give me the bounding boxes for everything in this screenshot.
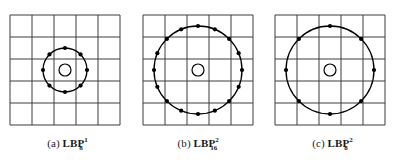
sampling-point	[284, 68, 288, 72]
panel-b-caption-prefix: (b)	[178, 137, 191, 149]
panel-a-superscript: 1	[84, 136, 88, 144]
sampling-point	[164, 99, 168, 103]
sampling-point	[297, 99, 301, 103]
sampling-point	[63, 46, 67, 50]
panel-b-caption: (b) LBP216	[178, 136, 218, 152]
sampling-point	[164, 37, 168, 41]
sampling-point	[195, 112, 199, 116]
center-pixel-marker	[59, 64, 71, 76]
sampling-point	[359, 37, 363, 41]
sampling-point	[195, 24, 199, 28]
sampling-point	[372, 68, 376, 72]
sampling-point	[239, 68, 243, 72]
sampling-point	[155, 85, 159, 89]
panel-b-superscript: 2	[215, 136, 219, 144]
panel-c-grid	[275, 15, 385, 125]
sampling-point	[179, 109, 183, 113]
panel-a-grid	[10, 15, 120, 125]
panel-a: (a) LBP18	[0, 0, 130, 160]
lbp-figure: (a) LBP18 (b) LBP216 (c) LBP28	[0, 0, 395, 160]
sampling-point	[47, 52, 51, 56]
sampling-point	[328, 24, 332, 28]
panel-b-grid	[143, 15, 253, 125]
sampling-point	[151, 68, 155, 72]
panel-c-diagram	[274, 11, 386, 129]
panel-a-caption-prefix: (a)	[47, 137, 60, 149]
sampling-point	[212, 109, 216, 113]
panel-a-subscript: 8	[79, 144, 83, 152]
panel-c-canvas	[274, 11, 386, 129]
panel-b-subscript: 16	[210, 144, 217, 152]
sampling-point	[227, 99, 231, 103]
panel-a-diagram	[9, 11, 121, 129]
sampling-point	[78, 83, 82, 87]
sampling-point	[359, 99, 363, 103]
center-pixel-marker	[192, 64, 204, 76]
sampling-point	[78, 52, 82, 56]
sampling-point	[85, 68, 89, 72]
panel-c: (c) LBP28	[265, 0, 395, 160]
sampling-point	[297, 37, 301, 41]
sampling-point	[236, 51, 240, 55]
panel-a-caption: (a) LBP18	[47, 136, 83, 152]
sampling-point	[41, 68, 45, 72]
sampling-point	[179, 27, 183, 31]
sampling-point	[63, 90, 67, 94]
panel-c-subscript: 8	[344, 144, 348, 152]
panel-c-superscript: 2	[349, 136, 353, 144]
panel-a-canvas	[9, 11, 121, 129]
center-pixel-marker	[324, 64, 336, 76]
sampling-point	[155, 51, 159, 55]
sampling-point	[47, 83, 51, 87]
panel-c-caption-prefix: (c)	[312, 137, 325, 149]
sampling-point	[236, 85, 240, 89]
sampling-point	[227, 37, 231, 41]
sampling-point	[328, 112, 332, 116]
panel-b-canvas	[142, 11, 254, 129]
panel-c-caption: (c) LBP28	[312, 136, 348, 152]
panel-b-diagram	[142, 11, 254, 129]
sampling-point	[212, 27, 216, 31]
panel-b: (b) LBP216	[133, 0, 263, 160]
